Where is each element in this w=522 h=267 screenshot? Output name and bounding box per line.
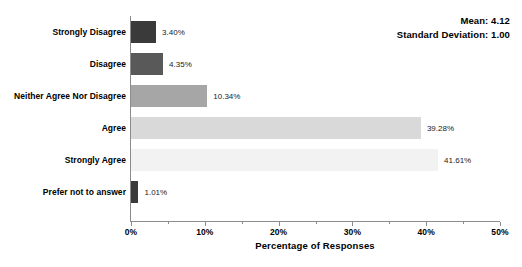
bar-value-label: 41.61% — [444, 156, 471, 165]
bar — [131, 149, 438, 171]
bar-row: Disagree4.35% — [0, 48, 522, 80]
bar-row: Neither Agree Nor Disagree10.34% — [0, 80, 522, 112]
category-label: Strongly Disagree — [0, 27, 126, 37]
x-tick-major — [131, 222, 132, 226]
category-label: Agree — [0, 123, 126, 133]
x-tick-label: 40% — [418, 227, 435, 237]
bar-value-label: 10.34% — [213, 92, 240, 101]
bar-row: Strongly Agree41.61% — [0, 144, 522, 176]
bar-value-label: 4.35% — [169, 60, 192, 69]
x-tick-label: 20% — [270, 227, 287, 237]
x-tick-major — [352, 222, 353, 226]
category-label: Prefer not to answer — [0, 187, 126, 197]
x-tick-major — [500, 222, 501, 226]
bar — [131, 181, 138, 203]
bar-value-label: 1.01% — [144, 188, 167, 197]
x-tick-minor — [168, 222, 169, 224]
category-label: Neither Agree Nor Disagree — [0, 91, 126, 101]
bar-value-label: 39.28% — [427, 124, 454, 133]
bar — [131, 21, 156, 43]
x-axis-title: Percentage of Responses — [130, 240, 500, 251]
x-tick-major — [205, 222, 206, 226]
bar-row: Agree39.28% — [0, 112, 522, 144]
plot-area: 0%10%20%30%40%50% Strongly Disagree3.40%… — [0, 0, 522, 267]
x-tick-minor — [316, 222, 317, 224]
bar — [131, 53, 163, 75]
x-tick-minor — [463, 222, 464, 224]
x-tick-major — [279, 222, 280, 226]
survey-bar-chart: Mean: 4.12 Standard Deviation: 1.00 0%10… — [0, 0, 522, 267]
category-label: Strongly Agree — [0, 155, 126, 165]
x-tick-label: 0% — [125, 227, 138, 237]
bar — [131, 85, 207, 107]
bar-value-label: 3.40% — [162, 28, 185, 37]
bar — [131, 117, 421, 139]
x-tick-label: 10% — [196, 227, 213, 237]
x-tick-label: 50% — [491, 227, 508, 237]
category-label: Disagree — [0, 59, 126, 69]
bar-row: Strongly Disagree3.40% — [0, 16, 522, 48]
x-tick-label: 30% — [344, 227, 361, 237]
x-tick-minor — [242, 222, 243, 224]
bar-row: Prefer not to answer1.01% — [0, 176, 522, 208]
x-tick-major — [426, 222, 427, 226]
x-tick-minor — [389, 222, 390, 224]
